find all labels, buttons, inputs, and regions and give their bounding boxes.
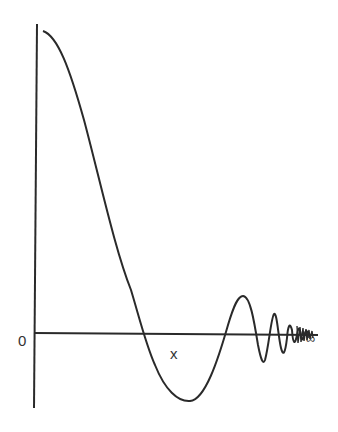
- diagram-canvas: [0, 0, 338, 432]
- infinity-label: ∞: [306, 331, 315, 346]
- origin-label: 0: [18, 332, 26, 349]
- x-axis: [34, 333, 318, 335]
- y-axis: [34, 24, 37, 408]
- x-label: x: [170, 345, 178, 362]
